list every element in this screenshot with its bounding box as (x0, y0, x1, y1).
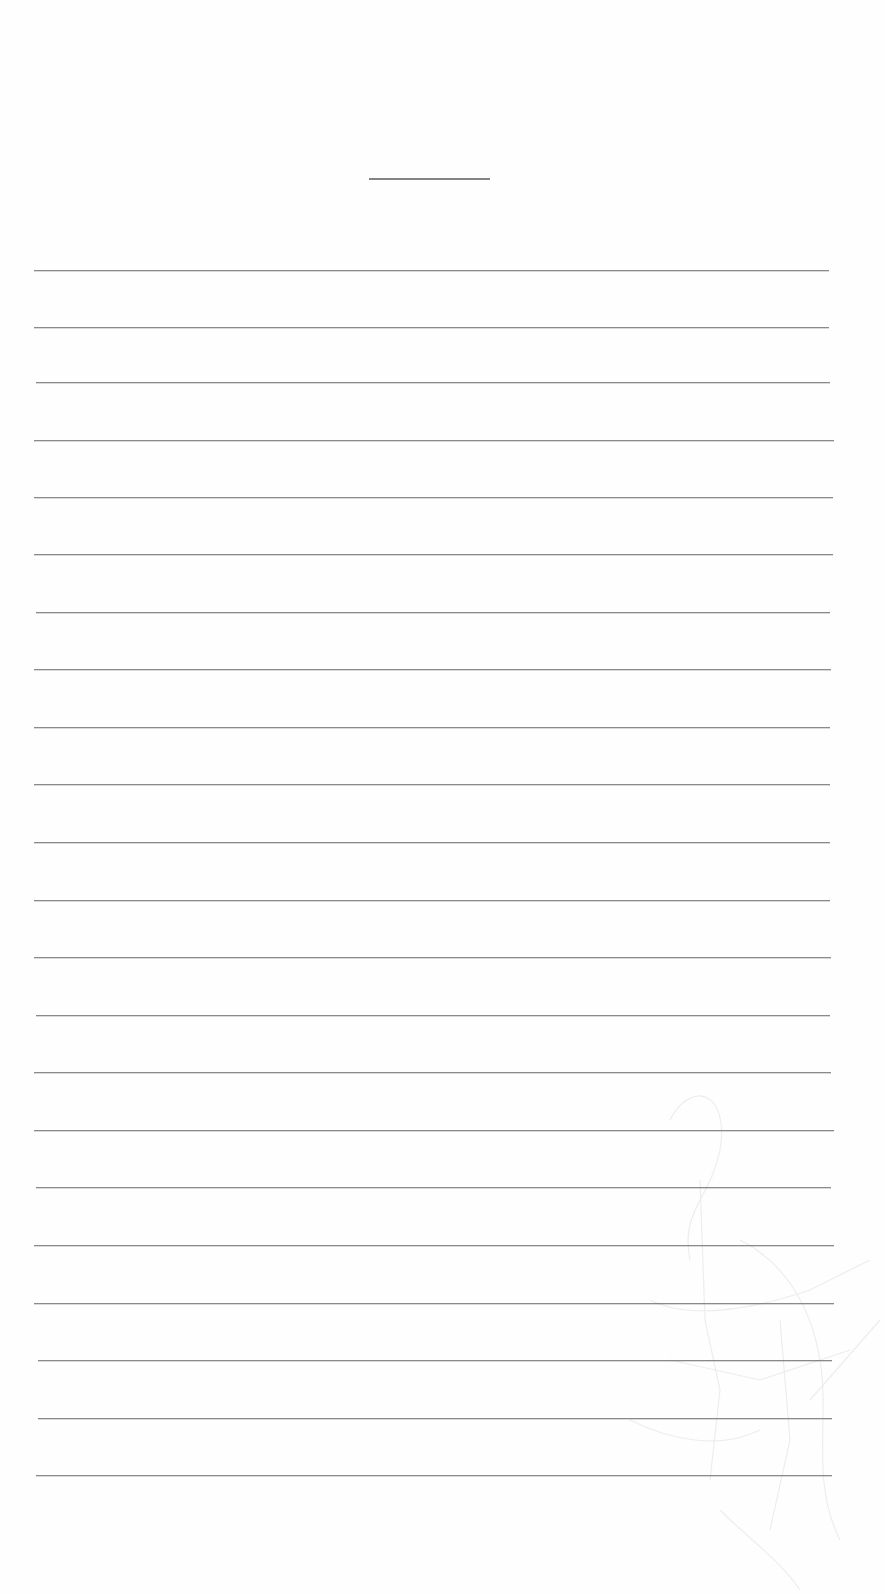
ruled-line (34, 1072, 831, 1073)
ruled-line (34, 727, 830, 728)
ruled-line (36, 1475, 832, 1476)
ruled-line (36, 382, 830, 383)
ruled-line (34, 554, 833, 555)
ruled-line (34, 1130, 834, 1131)
faint-sketch-watermark (610, 1060, 885, 1594)
ruled-line (38, 1418, 832, 1419)
ruled-line (36, 1015, 830, 1016)
ruled-line (36, 612, 830, 613)
ruled-paper-page (0, 0, 885, 1594)
ruled-line (36, 1187, 831, 1188)
ruled-line (34, 669, 831, 670)
ruled-line (34, 842, 830, 843)
ruled-line (34, 497, 833, 498)
ruled-line (34, 1303, 834, 1304)
ruled-line (34, 900, 830, 901)
ruled-line (34, 957, 831, 958)
ruled-line (34, 327, 829, 328)
ruled-line (34, 1245, 834, 1246)
ruled-line (38, 1360, 832, 1361)
ruled-line (34, 440, 834, 441)
title-underline (369, 178, 490, 180)
ruled-line (34, 270, 829, 271)
ruled-line (34, 784, 830, 785)
